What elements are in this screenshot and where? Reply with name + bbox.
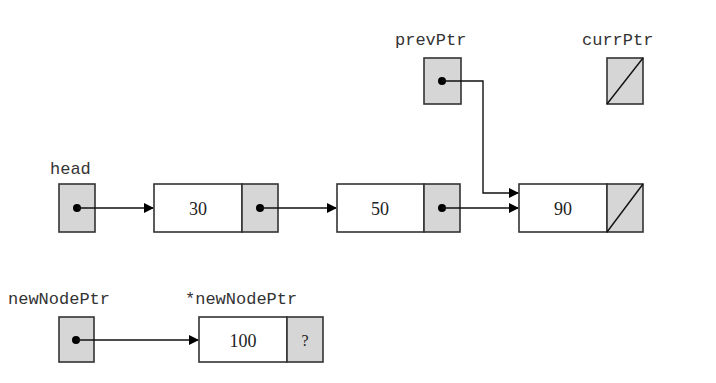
node-value: 100 (230, 331, 257, 351)
list-node: 90 (519, 184, 643, 232)
head-label: head (50, 160, 91, 179)
prevptr-pointer: prevPtr (395, 31, 518, 193)
list-node: 50 (337, 184, 518, 232)
currptr-label: currPtr (582, 31, 653, 50)
prevptr-label: prevPtr (395, 31, 466, 50)
node-value: 50 (371, 199, 389, 219)
unknown-next-value: ? (301, 332, 308, 349)
newnodeptr-pointer: newNodePtr (8, 290, 198, 362)
linked-list-diagram: head 30 50 90 prevPtr currPtr (0, 0, 716, 383)
list-node: 30 (154, 184, 336, 232)
newnodeptr-label: newNodePtr (8, 290, 110, 309)
new-node-label: *newNodePtr (185, 290, 297, 309)
head-pointer: head (50, 160, 153, 232)
node-value: 30 (189, 199, 207, 219)
new-node: *newNodePtr 100 ? (185, 290, 323, 362)
node-value: 90 (554, 199, 572, 219)
currptr-pointer: currPtr (582, 31, 653, 104)
